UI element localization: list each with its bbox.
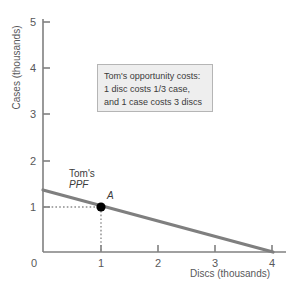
callout-line-3: and 1 case costs 3 discs — [104, 96, 212, 109]
y-tick-label-5: 5 — [22, 17, 36, 28]
point-a-label: A — [107, 191, 114, 201]
point-a-marker — [96, 202, 105, 211]
ppf-chart-figure: 1 2 3 4 5 0 1 2 3 4 Cases (thousands) Di… — [0, 0, 299, 290]
x-axis-label: Discs (thousands) — [190, 268, 270, 279]
chart-plot-area — [0, 0, 299, 290]
y-axis-label: Cases (thousands) — [11, 8, 22, 128]
ppf-series-label-line2: PPF — [69, 179, 95, 190]
y-tick-label-2: 2 — [22, 156, 36, 167]
y-tick-label-4: 4 — [22, 63, 36, 74]
x-tick-label-2: 2 — [151, 258, 165, 269]
x-tick-label-0: 0 — [27, 258, 41, 269]
y-axis-label-wrapper: Cases (thousands) — [0, 0, 22, 130]
callout-line-1: Tom's opportunity costs: — [104, 70, 212, 83]
opportunity-cost-callout: Tom's opportunity costs: 1 disc costs 1/… — [97, 64, 213, 112]
ppf-series-label: Tom's PPF — [69, 168, 95, 190]
y-tick-label-1: 1 — [22, 202, 36, 213]
x-tick-label-1: 1 — [94, 258, 108, 269]
ppf-line — [43, 190, 273, 252]
ppf-series-label-line1: Tom's — [69, 168, 95, 179]
y-tick-label-3: 3 — [22, 109, 36, 120]
callout-line-2: 1 disc costs 1/3 case, — [104, 83, 212, 96]
